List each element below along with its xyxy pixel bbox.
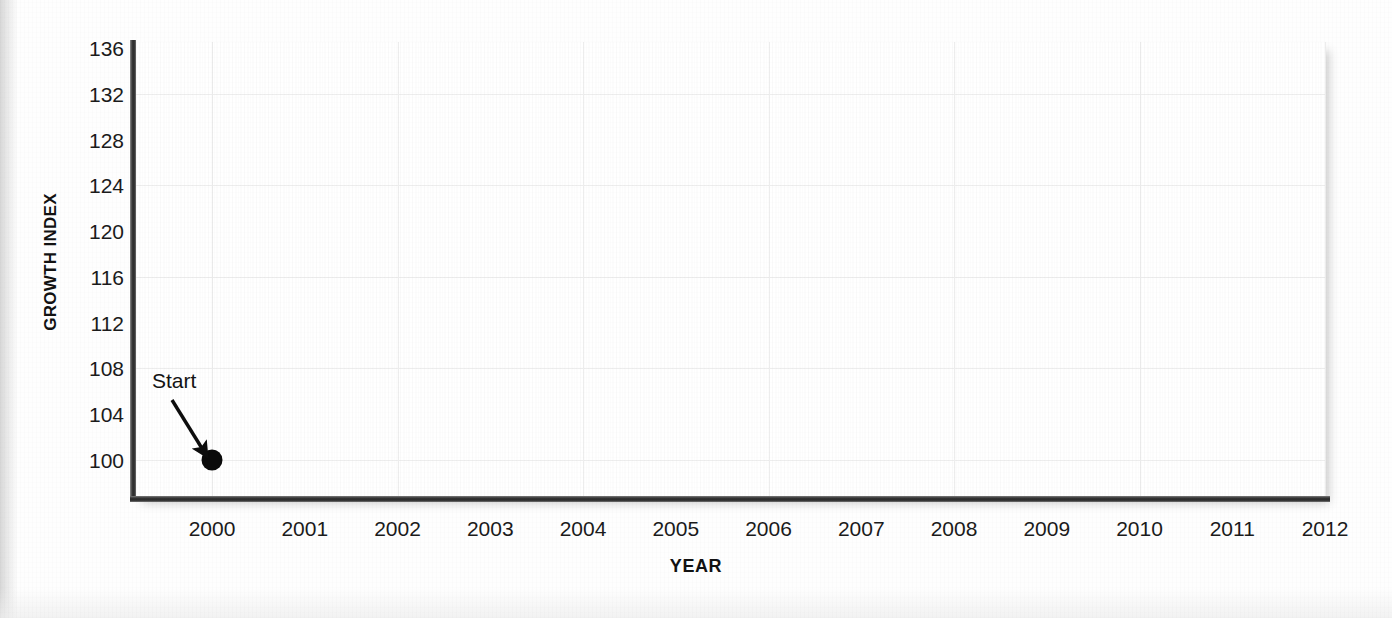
- gridline-vertical: [954, 42, 955, 500]
- y-axis-title: GROWTH INDEX: [41, 162, 61, 362]
- page-edge-shading-left: [0, 0, 17, 618]
- y-axis-tick-label: 124: [76, 175, 124, 196]
- gridline-horizontal: [133, 460, 1326, 461]
- gridline-horizontal: [133, 277, 1326, 278]
- page-edge-shading-bottom: [0, 588, 1392, 618]
- y-axis-tick-labels: 136132128124120116112108104100: [76, 0, 124, 618]
- gridline-vertical: [769, 42, 770, 500]
- gridline-horizontal: [133, 185, 1326, 186]
- y-axis-tick-label: 136: [76, 38, 124, 59]
- gridline-vertical: [398, 42, 399, 500]
- x-axis-line: [130, 496, 1330, 502]
- y-axis-tick-label: 112: [76, 313, 124, 334]
- x-axis-title: YEAR: [0, 556, 1392, 577]
- gridline-vertical: [1140, 42, 1141, 500]
- chart-figure: 136132128124120116112108104100 200020012…: [0, 0, 1392, 618]
- y-axis-tick-label: 132: [76, 84, 124, 105]
- x-axis-tick-label: 2012: [1270, 518, 1380, 539]
- annotation-start-label: Start: [152, 370, 196, 391]
- gridline-vertical: [1325, 42, 1326, 500]
- y-axis-tick-label: 108: [76, 358, 124, 379]
- y-axis-tick-label: 104: [76, 404, 124, 425]
- y-axis-tick-label: 120: [76, 221, 124, 242]
- y-axis-tick-label: 128: [76, 130, 124, 151]
- gridline-horizontal: [133, 368, 1326, 369]
- y-axis-tick-label: 116: [76, 267, 124, 288]
- y-axis-tick-label: 100: [76, 450, 124, 471]
- gridline-vertical: [583, 42, 584, 500]
- y-axis-line: [130, 40, 136, 502]
- gridline-horizontal: [133, 94, 1326, 95]
- plot-area: [133, 42, 1326, 500]
- gridline-vertical: [212, 42, 213, 500]
- panel-scan-texture: [133, 42, 1326, 500]
- data-point-marker: [202, 450, 223, 471]
